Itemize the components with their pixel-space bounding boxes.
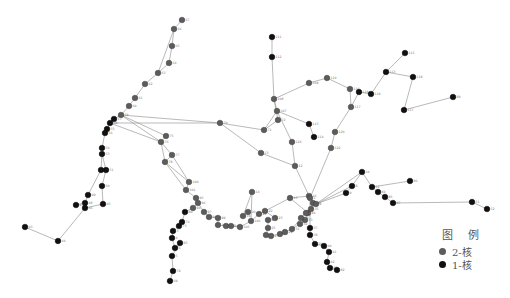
node-circle-icon bbox=[368, 91, 374, 97]
node-circle-icon bbox=[382, 194, 388, 200]
node-circle-icon bbox=[303, 210, 309, 216]
node-label: 107 bbox=[281, 109, 287, 113]
node-label: 87 bbox=[397, 201, 401, 205]
node-label: 31 bbox=[296, 227, 300, 231]
node-label: 58 bbox=[114, 121, 118, 125]
node-label: 51 bbox=[110, 168, 114, 172]
network-node: 1 bbox=[307, 195, 315, 201]
network-node: 54 bbox=[99, 145, 109, 151]
node-circle-icon bbox=[321, 243, 327, 249]
node-label: 120 bbox=[339, 130, 345, 134]
node-circle-icon bbox=[85, 192, 91, 198]
node-circle-icon bbox=[170, 268, 176, 274]
node-circle-icon bbox=[306, 80, 312, 86]
node-circle-icon bbox=[158, 139, 164, 145]
network-node: 108 bbox=[271, 96, 283, 102]
node-circle-icon bbox=[163, 133, 169, 139]
node-circle-icon bbox=[256, 211, 262, 217]
network-edge bbox=[335, 107, 351, 132]
node-label: 106 bbox=[255, 219, 261, 223]
network-edge bbox=[292, 142, 295, 166]
node-label: 119 bbox=[375, 92, 381, 96]
network-node: 25 bbox=[265, 225, 275, 231]
node-circle-icon bbox=[248, 218, 254, 224]
network-node: 110 bbox=[324, 75, 336, 81]
legend-title: 图 例 bbox=[439, 226, 486, 242]
node-circle-icon bbox=[287, 195, 293, 201]
node-label: 17 bbox=[310, 211, 314, 215]
legend-item-1-core: 1-核 bbox=[439, 258, 486, 271]
node-circle-icon bbox=[201, 209, 207, 215]
network-node: 45 bbox=[100, 201, 110, 207]
network-node: 112 bbox=[269, 54, 281, 60]
node-label: 10 bbox=[366, 170, 370, 174]
node-circle-icon bbox=[217, 120, 223, 126]
network-node: 105 bbox=[237, 224, 249, 230]
network-node: 43 bbox=[22, 224, 32, 230]
network-edge bbox=[295, 166, 310, 198]
node-circle-icon bbox=[311, 134, 317, 140]
node-circle-icon bbox=[170, 228, 176, 234]
network-node: 114 bbox=[311, 134, 323, 140]
node-label: 1 bbox=[314, 196, 316, 200]
network-node: 47 bbox=[73, 202, 83, 208]
gray-dot-icon bbox=[439, 248, 446, 255]
node-label: 105 bbox=[244, 225, 250, 229]
network-node: 83 bbox=[177, 240, 187, 246]
network-edge bbox=[121, 115, 161, 142]
node-circle-icon bbox=[268, 233, 274, 239]
node-label: 33 bbox=[309, 218, 313, 222]
network-node: 12 bbox=[292, 163, 302, 169]
network-edge bbox=[371, 72, 386, 94]
node-label: 43 bbox=[29, 225, 33, 229]
network-edge bbox=[220, 123, 261, 153]
node-circle-icon bbox=[343, 190, 349, 196]
network-node: 61 bbox=[132, 95, 142, 101]
network-edge bbox=[161, 142, 165, 162]
network-node: 113 bbox=[383, 69, 395, 75]
node-label: 53 bbox=[106, 152, 110, 156]
network-node: 50 bbox=[99, 183, 109, 189]
network-node: 86 bbox=[407, 178, 417, 184]
node-label: 35 bbox=[315, 207, 319, 211]
network-node: 52 bbox=[484, 206, 494, 212]
node-circle-icon bbox=[349, 183, 355, 189]
node-label: 41 bbox=[333, 250, 337, 254]
network-edge bbox=[110, 123, 161, 142]
network-node: 42 bbox=[324, 259, 334, 265]
node-circle-icon bbox=[55, 238, 61, 244]
node-label: 15 bbox=[294, 196, 298, 200]
node-circle-icon bbox=[237, 224, 243, 230]
network-node: 76 bbox=[158, 139, 168, 145]
network-node: 67 bbox=[179, 17, 189, 23]
node-label: 108 bbox=[278, 97, 284, 101]
network-edge bbox=[58, 208, 85, 241]
node-label: 70 bbox=[224, 121, 228, 125]
node-circle-icon bbox=[249, 189, 255, 195]
network-node: 124 bbox=[289, 139, 301, 145]
node-label: 22 bbox=[269, 209, 273, 213]
legend: 图 例 2-核 1-核 bbox=[439, 226, 486, 271]
node-label: 94 bbox=[197, 206, 201, 210]
network-node: 65 bbox=[169, 43, 179, 49]
node-label: 9 bbox=[350, 191, 352, 195]
node-circle-icon bbox=[348, 104, 354, 110]
node-label: 11 bbox=[376, 185, 380, 189]
node-label: 114 bbox=[318, 135, 324, 139]
network-edge bbox=[88, 170, 101, 195]
node-label: 63 bbox=[162, 71, 166, 75]
node-circle-icon bbox=[166, 60, 172, 66]
network-node: 113 bbox=[306, 121, 318, 127]
network-node: 77 bbox=[169, 152, 179, 158]
network-edges bbox=[25, 20, 487, 281]
node-circle-icon bbox=[484, 206, 490, 212]
network-node: 118 bbox=[356, 89, 368, 95]
network-edge bbox=[158, 29, 174, 73]
node-label: 2 bbox=[320, 202, 322, 206]
network-node: 96 bbox=[195, 200, 205, 206]
node-label: 52 bbox=[491, 207, 495, 211]
network-node: 31 bbox=[289, 226, 299, 232]
node-circle-icon bbox=[162, 159, 168, 165]
network-node: 14 bbox=[249, 189, 259, 195]
node-circle-icon bbox=[206, 214, 212, 220]
